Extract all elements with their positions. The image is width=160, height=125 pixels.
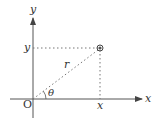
angle-label: θ: [48, 87, 54, 98]
radius-label: r: [64, 58, 70, 71]
angle-arc: [43, 91, 46, 99]
polar-coordinate-diagram: y x O y x r θ: [0, 0, 160, 125]
point-marker-inner: [98, 46, 101, 49]
x-axis-label: x: [145, 92, 152, 105]
x-coordinate-label: x: [97, 99, 104, 112]
y-axis-label: y: [29, 3, 37, 16]
y-coordinate-label: y: [23, 41, 31, 54]
origin-label: O: [23, 98, 32, 111]
